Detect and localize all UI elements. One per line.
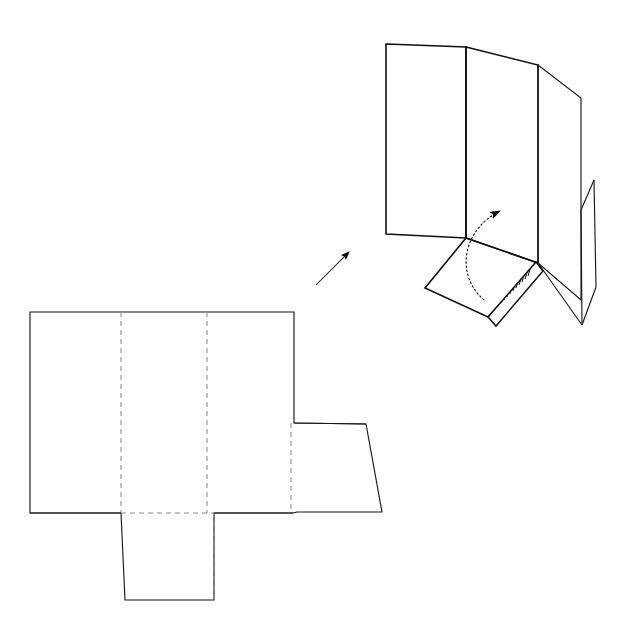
technical-drawing-svg <box>0 0 632 629</box>
panel-right-wing-fill <box>538 65 581 300</box>
flat-blank-fill <box>30 312 382 600</box>
panel-back-left-fill <box>386 44 466 238</box>
folded-assembly-group <box>386 44 596 326</box>
assembly-direction-arrow <box>316 252 349 285</box>
diagram-canvas <box>0 0 632 629</box>
transition-arrow-group <box>316 252 349 285</box>
sliver-flap-fill <box>581 180 596 325</box>
flat-blank-group <box>30 312 382 600</box>
